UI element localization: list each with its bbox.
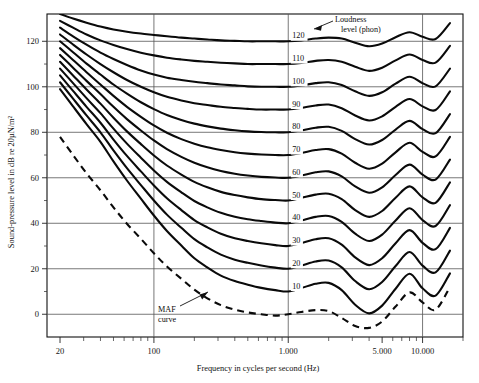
equal-loudness-contour-figure: 020406080100120201001.0005.00010.0001201…	[0, 0, 479, 383]
x-tick-label: 100	[148, 346, 161, 356]
phon-curve-label: 40	[292, 213, 300, 222]
curve-layer	[60, 14, 450, 328]
phon-curve-label: 120	[292, 31, 304, 40]
y-tick-label: 80	[31, 127, 40, 137]
equal-loudness-curve	[60, 21, 450, 71]
phon-curve-label: 70	[292, 145, 300, 154]
x-axis-title: Frequency in cycles per second (Hz)	[197, 364, 320, 373]
x-tick-label: 1.000	[279, 346, 298, 356]
phon-curve-label: 20	[292, 259, 300, 268]
loudness-annotation-line2: level (phon)	[341, 25, 381, 34]
maf-annotation-line1: MAF	[158, 305, 176, 314]
phon-curve-label: 10	[292, 282, 300, 291]
maf-annotation-line2: curve	[158, 315, 177, 324]
y-tick-label: 0	[35, 309, 39, 319]
maf-curve-path	[60, 137, 450, 328]
maf-annotation: MAF curve	[158, 292, 208, 324]
y-tick-label: 20	[31, 264, 40, 274]
equal-loudness-curve	[60, 41, 450, 144]
loudness-level-annotation: Loudness level (phon)	[314, 15, 381, 34]
phon-curve-label: 100	[292, 77, 304, 86]
y-tick-label: 60	[31, 173, 40, 183]
chart-canvas: 020406080100120201001.0005.00010.0001201…	[0, 0, 479, 383]
x-tick-label: 20	[56, 346, 65, 356]
loudness-arrowhead	[314, 25, 322, 31]
x-tick-label: 5.000	[373, 346, 392, 356]
equal-loudness-curve	[60, 82, 450, 289]
loudness-annotation-line1: Loudness	[335, 15, 366, 24]
phon-curve-label: 90	[292, 100, 300, 109]
y-tick-label: 100	[26, 82, 39, 92]
phon-curve-label: 30	[292, 236, 300, 245]
phon-curve-label: 50	[292, 191, 300, 200]
phon-curve-label: 80	[292, 122, 300, 131]
y-tick-label: 40	[31, 218, 40, 228]
y-tick-label: 120	[26, 36, 39, 46]
y-axis-title: Sound-pressure level in dB re 20µN/m²	[7, 115, 16, 248]
phon-curve-label: 60	[292, 168, 300, 177]
phon-curve-label: 110	[292, 54, 304, 63]
x-tick-label: 10.000	[411, 346, 434, 356]
